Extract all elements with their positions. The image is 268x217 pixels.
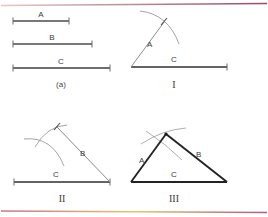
label-segment-b: B <box>49 33 54 42</box>
construction-figure: A B C (a) A C I <box>0 0 268 217</box>
panel-three-apex-vertex <box>164 132 167 135</box>
panel-one-label-c: C <box>171 55 177 64</box>
figure-background <box>0 0 268 217</box>
panel-one-label-a: A <box>147 40 153 49</box>
caption-panel-one: I <box>172 79 175 90</box>
panel-three-label-c: C <box>171 170 177 179</box>
label-segment-c: C <box>58 57 64 66</box>
caption-panel-two: II <box>59 193 66 204</box>
panel-two-label-c: C <box>53 170 59 179</box>
panel-three-label-a: A <box>139 156 145 165</box>
label-segment-a: A <box>38 10 44 19</box>
panel-two-label-b: B <box>80 149 85 158</box>
panel-three-label-b: B <box>196 150 201 159</box>
caption-panel-a: (a) <box>56 80 66 89</box>
caption-panel-three: III <box>169 193 179 204</box>
figure-page: A B C (a) A C I <box>0 0 268 217</box>
